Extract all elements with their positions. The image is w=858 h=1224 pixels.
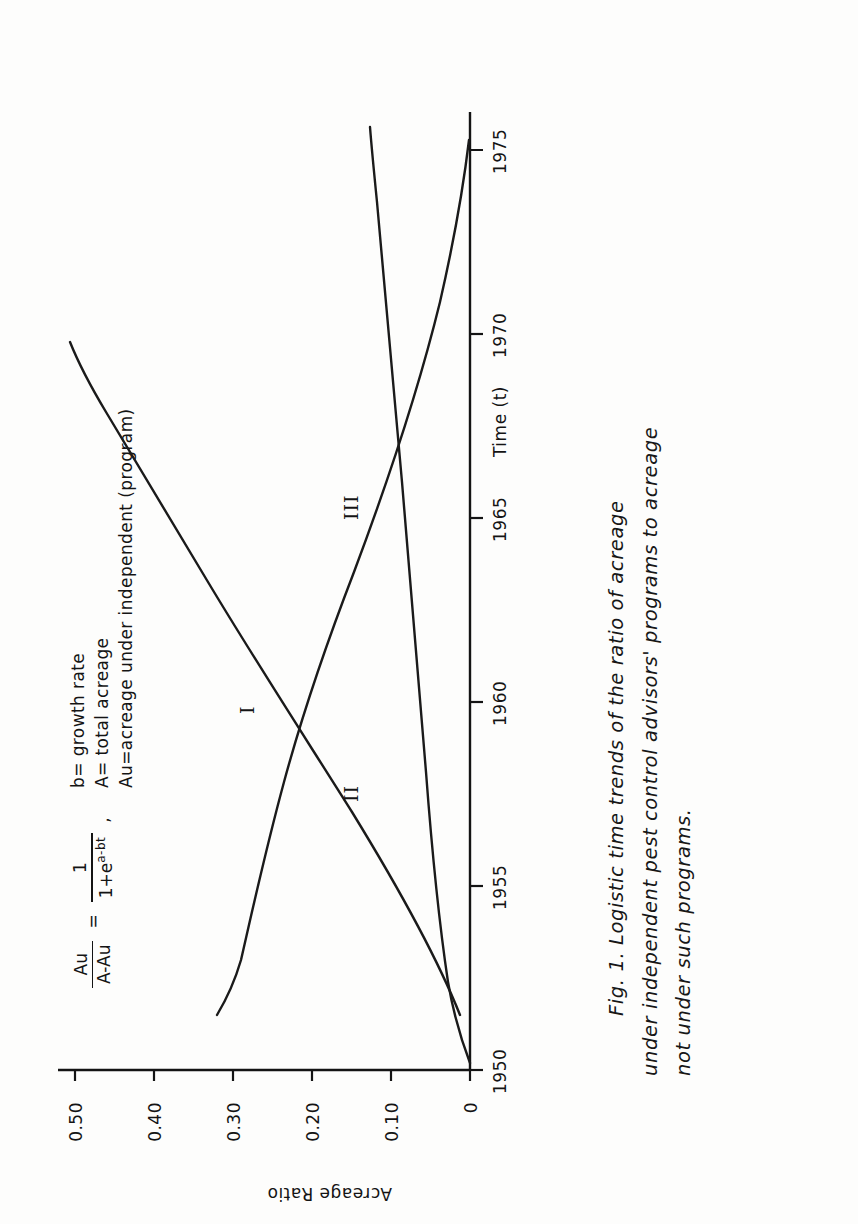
y-tick-label-020: 0.20 <box>303 1102 323 1168</box>
chart-plot-area: 0 0.10 0.20 0.30 0.40 0.50 1950 1955 196… <box>40 102 500 1112</box>
chart-svg <box>40 102 500 1112</box>
figure-caption: Fig. 1. Logistic time trends of the rati… <box>600 116 701 1076</box>
x-axis-title: Time (t) <box>490 386 510 457</box>
y-tick-label-030: 0.30 <box>224 1102 244 1168</box>
x-tick-label-1955: 1955 <box>490 865 510 910</box>
y-tick-label-050: 0.50 <box>66 1102 86 1168</box>
y-tick-label-010: 0.10 <box>382 1102 402 1168</box>
curve-II <box>217 140 469 1015</box>
curve-label-II: II <box>340 785 362 802</box>
figure-page: Au A-Au = 1 1+ea-bt , b= growth rate A= … <box>0 0 858 1224</box>
caption-line-2: under independent pest control advisors'… <box>634 116 668 1076</box>
caption-line-1: Fig. 1. Logistic time trends of the rati… <box>600 116 634 1076</box>
y-tick-label-0: 0 <box>461 1102 481 1168</box>
curve-label-I: I <box>236 705 258 714</box>
curve-III <box>370 127 470 1063</box>
figure: Au A-Au = 1 1+ea-bt , b= growth rate A= … <box>0 0 858 1224</box>
y-tick-label-040: 0.40 <box>145 1102 165 1168</box>
x-tick-label-1970: 1970 <box>490 313 510 358</box>
rotated-figure-container: Au A-Au = 1 1+ea-bt , b= growth rate A= … <box>0 0 858 1224</box>
curve-I <box>70 342 460 1015</box>
x-tick-label-1950: 1950 <box>490 1049 510 1094</box>
y-axis-title: Acreage Ratio <box>267 1184 392 1204</box>
x-tick-label-1960: 1960 <box>490 681 510 726</box>
x-tick-label-1965: 1965 <box>490 497 510 542</box>
caption-line-3: not under such programs. <box>667 116 701 1076</box>
x-axis-ticks <box>470 150 483 1070</box>
y-axis-ticks <box>75 1070 470 1081</box>
curve-label-III: III <box>340 494 362 520</box>
x-tick-label-1975: 1975 <box>490 129 510 174</box>
